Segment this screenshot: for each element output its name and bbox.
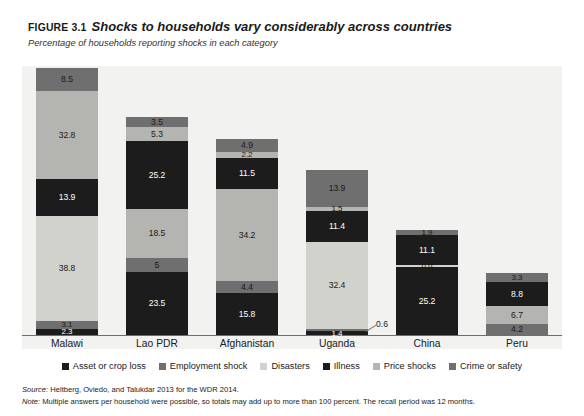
segment-value-label: 5.3 — [151, 129, 163, 139]
legend-item-disasters[interactable]: Disasters — [260, 361, 309, 371]
legend-item-employment-shock[interactable]: Employment shock — [159, 361, 248, 371]
legend-item-crime-or-safety[interactable]: Crime or safety — [449, 361, 522, 371]
segment-value-label: 25.2 — [419, 296, 436, 306]
legend-item-asset-or-crop-loss[interactable]: Asset or crop loss — [62, 361, 146, 371]
source-note: Source: Heltberg, Oviedo, and Talukdar 2… — [22, 384, 578, 396]
bar-afghanistan[interactable]: 15.84.434.211.52.24.9 — [216, 139, 278, 335]
figure-header: FIGURE 3.1Shocks to households vary cons… — [28, 20, 568, 48]
legend-swatch-icon — [62, 363, 69, 370]
segment-value-label: 34.2 — [239, 230, 256, 240]
segment-value-label: 11.4 — [329, 221, 345, 231]
segment-value-label: 3.5 — [151, 117, 163, 127]
figure-number: FIGURE 3.1 — [28, 22, 87, 33]
segment-china-illness[interactable]: 11.1 — [396, 235, 458, 265]
segment-peru-asset-or-crop-loss[interactable]: 4.2 — [486, 324, 548, 335]
callout-value-label: 0.6 — [376, 319, 388, 329]
note-text: Multiple answers per household were poss… — [40, 397, 475, 406]
segment-china-employment-shock[interactable]: 0.6 — [396, 265, 458, 268]
segment-afghanistan-illness[interactable]: 11.5 — [216, 158, 278, 189]
segment-value-label: 11.5 — [239, 168, 255, 178]
segment-value-label: 25.2 — [149, 170, 166, 180]
segment-value-label: 3.3 — [511, 273, 522, 282]
segment-malawi-employment-shock[interactable]: 3.1 — [36, 321, 98, 329]
segment-lao-pdr-price-shocks[interactable]: 5.3 — [126, 127, 188, 141]
legend-label: Employment shock — [170, 361, 248, 371]
source-label: Source: — [22, 385, 48, 394]
segment-afghanistan-price-shocks[interactable]: 2.2 — [216, 152, 278, 158]
segment-china-asset-or-crop-loss[interactable]: 25.2 — [396, 267, 458, 335]
segment-uganda-illness[interactable]: 11.4 — [306, 211, 368, 242]
segment-afghanistan-asset-or-crop-loss[interactable]: 15.8 — [216, 293, 278, 336]
page-title: Shocks to households vary considerably a… — [87, 19, 453, 34]
segment-peru-disasters[interactable]: 6.7 — [486, 306, 548, 324]
segment-malawi-disasters[interactable]: 38.8 — [36, 216, 98, 320]
legend-label: Price shocks — [384, 361, 436, 371]
segment-value-label: 1.5 — [331, 204, 342, 213]
legend-label: Crime or safety — [460, 361, 522, 371]
segment-value-label: 13.9 — [329, 183, 346, 193]
segment-value-label: 4.2 — [511, 324, 523, 334]
legend-item-price-shocks[interactable]: Price shocks — [373, 361, 436, 371]
note-line: Note: Multiple answers per household wer… — [22, 396, 578, 408]
segment-value-label: 23.5 — [149, 298, 166, 308]
segment-uganda-price-shocks[interactable]: 1.5 — [306, 207, 368, 211]
segment-uganda-disasters[interactable]: 32.4 — [306, 242, 368, 329]
figure-3-1: FIGURE 3.1Shocks to households vary cons… — [0, 0, 584, 416]
segment-value-label: 4.9 — [241, 140, 253, 150]
x-axis-line — [22, 335, 562, 336]
segment-value-label: 0.6 — [421, 261, 432, 270]
segment-value-label: 13.9 — [59, 192, 76, 202]
segment-malawi-illness[interactable]: 13.9 — [36, 179, 98, 216]
segment-value-label: 8.8 — [511, 289, 523, 299]
bar-chart-bars: 2.33.138.813.932.88.523.5518.525.25.33.5… — [22, 66, 562, 335]
bar-malawi[interactable]: 2.33.138.813.932.88.5 — [36, 68, 98, 335]
segment-lao-pdr-asset-or-crop-loss[interactable]: 23.5 — [126, 272, 188, 335]
legend-swatch-icon — [159, 363, 166, 370]
segment-peru-illness[interactable]: 8.8 — [486, 282, 548, 306]
segment-china-crime-or-safety[interactable]: 1.9 — [396, 230, 458, 235]
segment-value-label: 4.4 — [241, 282, 253, 292]
legend-label: Asset or crop loss — [73, 361, 146, 371]
segment-afghanistan-disasters[interactable]: 34.2 — [216, 189, 278, 281]
x-axis-labels: MalawiLao PDRAfghanistanUgandaChinaPeru — [22, 338, 562, 354]
segment-value-label: 32.8 — [59, 130, 76, 140]
bar-china[interactable]: 25.20.611.11.9 — [396, 230, 458, 335]
legend-swatch-icon — [449, 363, 456, 370]
chart-legend: Asset or crop lossEmployment shockDisast… — [22, 361, 562, 371]
segment-value-label: 2.2 — [241, 150, 252, 159]
segment-value-label: 8.5 — [61, 74, 73, 84]
segment-value-label: 1.4 — [331, 329, 342, 338]
bar-lao-pdr[interactable]: 23.5518.525.25.33.5 — [126, 117, 188, 335]
legend-swatch-icon — [373, 363, 380, 370]
segment-lao-pdr-disasters[interactable]: 18.5 — [126, 209, 188, 259]
legend-swatch-icon — [260, 363, 267, 370]
note-label: Note: — [22, 397, 40, 406]
source-text: Heltberg, Oviedo, and Talukdar 2013 for … — [48, 385, 239, 394]
legend-label: Disasters — [271, 361, 309, 371]
segment-value-label: 5 — [155, 260, 160, 270]
figure-subtitle: Percentage of households reporting shock… — [28, 38, 568, 48]
segment-value-label: 15.8 — [239, 309, 256, 319]
legend-label: Illness — [334, 361, 360, 371]
bar-peru[interactable]: 4.26.78.83.3 — [486, 273, 548, 335]
segment-uganda-crime-or-safety[interactable]: 13.9 — [306, 170, 368, 207]
legend-swatch-icon — [323, 363, 330, 370]
segment-lao-pdr-employment-shock[interactable]: 5 — [126, 258, 188, 271]
segment-value-label: 11.1 — [419, 245, 435, 255]
segment-afghanistan-employment-shock[interactable]: 4.4 — [216, 281, 278, 293]
segment-value-label: 3.1 — [61, 320, 72, 329]
bar-uganda[interactable]: 1.432.411.41.513.9 — [306, 170, 368, 335]
figure-title-line: FIGURE 3.1Shocks to households vary cons… — [28, 20, 568, 35]
x-label-peru: Peru — [462, 338, 572, 349]
segment-value-label: 38.8 — [59, 263, 76, 273]
segment-lao-pdr-illness[interactable]: 25.2 — [126, 141, 188, 209]
segment-peru-crime-or-safety[interactable]: 3.3 — [486, 273, 548, 282]
segment-malawi-price-shocks[interactable]: 32.8 — [36, 91, 98, 179]
segment-afghanistan-crime-or-safety[interactable]: 4.9 — [216, 139, 278, 152]
figure-footnotes: Source: Heltberg, Oviedo, and Talukdar 2… — [22, 384, 578, 407]
segment-malawi-crime-or-safety[interactable]: 8.5 — [36, 68, 98, 91]
segment-lao-pdr-crime-or-safety[interactable]: 3.5 — [126, 117, 188, 126]
segment-value-label: 18.5 — [149, 228, 166, 238]
legend-item-illness[interactable]: Illness — [323, 361, 360, 371]
segment-value-label: 32.4 — [329, 280, 346, 290]
